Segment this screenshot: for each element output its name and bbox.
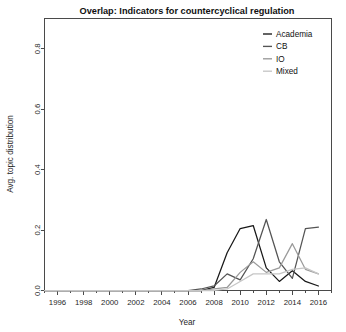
y-tick-label: 0.0 xyxy=(33,284,42,296)
y-tick-label: 0.2 xyxy=(33,225,42,236)
legend-label-cb: CB xyxy=(276,42,288,51)
x-tick-label: 2014 xyxy=(284,298,302,307)
x-tick-label: 1998 xyxy=(75,298,92,307)
chart-figure: Overlap: Indicators for countercyclical … xyxy=(0,0,346,332)
x-tick-label: 2000 xyxy=(101,298,119,307)
line-chart-canvas: Overlap: Indicators for countercyclical … xyxy=(0,0,346,332)
x-tick-label: 2006 xyxy=(179,298,196,307)
chart-title: Overlap: Indicators for countercyclical … xyxy=(80,6,295,16)
x-tick-label: 2002 xyxy=(127,298,144,307)
legend-label-academia: Academia xyxy=(276,30,313,39)
y-tick-label: 0.4 xyxy=(33,164,42,176)
y-axis-title: Avg. topic distribution xyxy=(6,115,15,193)
legend-label-io: IO xyxy=(276,55,285,64)
x-tick-label: 2008 xyxy=(205,298,222,307)
x-tick-label: 1996 xyxy=(49,298,66,307)
y-tick-label: 0.8 xyxy=(33,43,42,54)
x-tick-label: 2010 xyxy=(232,298,250,307)
figure-background xyxy=(0,0,346,332)
y-tick-label: 0.6 xyxy=(33,104,42,115)
x-tick-label: 2012 xyxy=(258,298,275,307)
x-tick-label: 2016 xyxy=(310,298,327,307)
legend-label-mixed: Mixed xyxy=(276,67,298,76)
x-axis-title: Year xyxy=(179,318,196,327)
x-tick-label: 2004 xyxy=(153,298,171,307)
